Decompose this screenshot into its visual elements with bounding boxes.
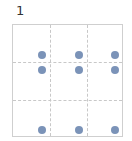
dot [75, 66, 83, 74]
dot [111, 51, 119, 59]
grid-line-horizontal [13, 100, 122, 101]
grid-line-vertical [50, 25, 51, 136]
grid-line-vertical [87, 25, 88, 136]
dot [75, 51, 83, 59]
grid-frame [12, 24, 123, 137]
dot [111, 66, 119, 74]
figure-number-label: 1 [16, 3, 24, 18]
dot [38, 51, 46, 59]
grid-line-horizontal [13, 62, 122, 63]
dot [111, 126, 119, 134]
dot [38, 66, 46, 74]
dot [38, 126, 46, 134]
dot [75, 126, 83, 134]
